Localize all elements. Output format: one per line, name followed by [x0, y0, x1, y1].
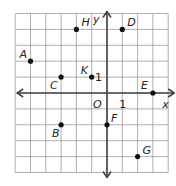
point-label-e: E [141, 79, 148, 92]
point-label-d: D [127, 16, 135, 29]
origin-label: O [93, 98, 102, 111]
point-label-a: A [19, 48, 28, 61]
point-e [150, 90, 155, 95]
point-k [89, 75, 94, 80]
point-a [28, 59, 33, 64]
point-g [135, 154, 140, 159]
x-axis-label: x [161, 98, 169, 111]
point-label-h: H [81, 16, 89, 29]
coordinate-plane: ABCDEFGHK x y O 1 1 [0, 0, 176, 186]
point-label-b: B [52, 127, 60, 140]
point-label-f: F [111, 112, 118, 125]
point-d [120, 27, 125, 32]
point-c [59, 75, 64, 80]
y-tick-label-1: 1 [95, 71, 102, 84]
point-label-c: C [50, 79, 58, 92]
y-axis-label: y [92, 13, 100, 26]
point-label-k: K [81, 64, 89, 77]
x-tick-label-1: 1 [119, 98, 126, 111]
point-h [74, 27, 79, 32]
points: ABCDEFGHK [19, 16, 156, 159]
point-label-g: G [143, 144, 152, 157]
point-f [104, 122, 109, 127]
